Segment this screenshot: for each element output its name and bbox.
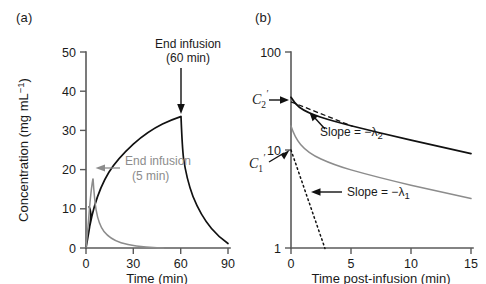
label-slope-lambda2: Slope = −λ2 [320,125,383,141]
arrow-slope-lambda1 [311,188,342,196]
line-terminal-slope-lambda2 [291,102,353,127]
x-ticks-a [86,248,228,254]
panel-label-a: (a) [16,10,33,25]
panel-a-plot: 0 10 20 30 40 50 0 30 60 90 Time (min) C… [0,0,243,284]
annotation-60min-line1: End infusion [155,37,221,51]
x-tick-label-a-0: 0 [83,257,90,271]
line-residual-slope-lambda1 [291,150,325,249]
y-tick-label-b-100: 100 [260,46,281,60]
figure-container: 0 10 20 30 40 50 0 30 60 90 Time (min) C… [0,0,486,284]
x-axis-title-b: Time post-infusion (min) [312,271,451,284]
annotation-5min-line1: End infusion [125,154,191,168]
label-c2-prime: C2′ [252,89,269,110]
y-ticks-a [80,52,86,248]
x-axis-title-a: Time (min) [126,271,188,284]
x-tick-label-a-60: 60 [174,257,188,271]
x-tick-label-b-5: 5 [348,257,355,271]
x-tick-label-a-90: 90 [221,257,235,271]
y-tick-label-a-50: 50 [62,46,76,60]
y-tick-label-a-40: 40 [62,85,76,99]
panel-label-b: (b) [255,10,272,25]
x-tick-label-a-30: 30 [126,257,140,271]
x-tick-label-b-0: 0 [288,257,295,271]
y-tick-label-a-10: 10 [62,202,76,216]
annotation-60min-line2: (60 min) [166,51,210,65]
y-axis-title-a: Concentration (mg mL−1) [15,78,31,222]
y-tick-label-a-20: 20 [62,163,76,177]
curve-b-60min-postinfusion [291,97,471,153]
panel-a: 0 10 20 30 40 50 0 30 60 90 Time (min) C… [0,0,243,284]
x-ticks-b [291,248,471,254]
panel-b: 1 10 100 0 5 10 15 Time post-infusion (m… [243,0,486,284]
annotation-5min-line2: (5 min) [132,169,169,183]
x-tick-label-b-15: 15 [464,257,478,271]
curve-5min-infusion [86,179,164,248]
y-ticks-b [285,52,291,248]
arrow-c2-right [269,96,289,104]
label-slope-lambda1: Slope = −λ1 [347,185,410,201]
panel-b-plot: 1 10 100 0 5 10 15 Time post-infusion (m… [243,0,486,284]
arrow-60min-down [177,68,185,114]
arrow-5min-left [96,164,121,171]
y-tick-label-b-1: 1 [274,242,281,256]
x-tick-label-b-10: 10 [404,257,418,271]
y-tick-label-a-30: 30 [62,124,76,138]
label-c1-prime: C1′ [249,153,266,174]
y-tick-label-a-0: 0 [69,242,76,256]
